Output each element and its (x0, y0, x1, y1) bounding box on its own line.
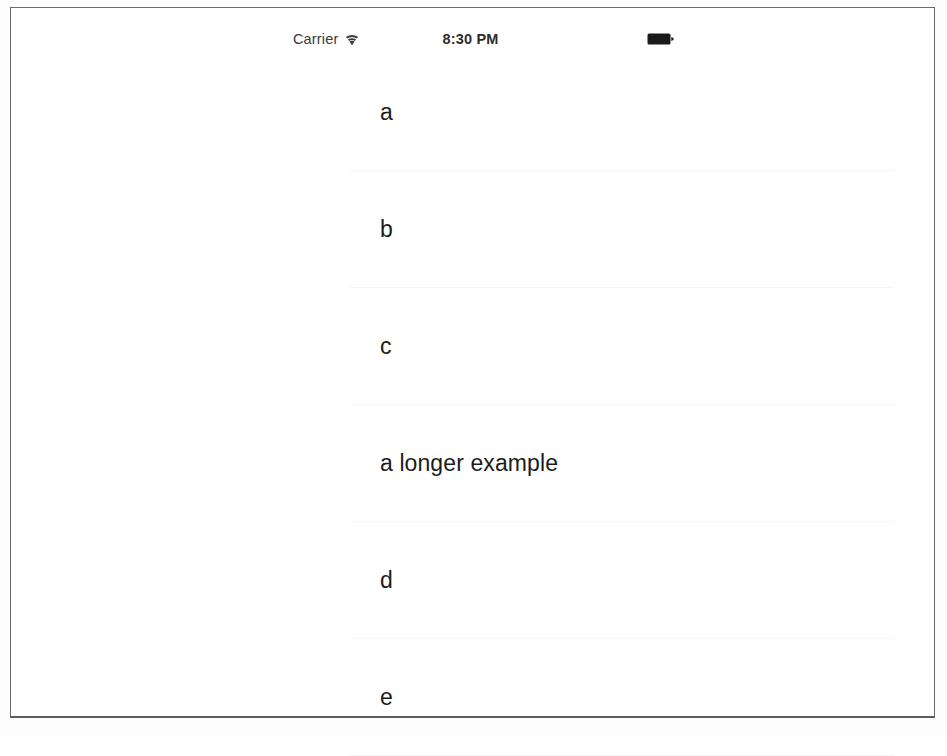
table-row-label: d (380, 567, 393, 594)
table-row-label: c (380, 333, 392, 360)
table-row[interactable]: b (11, 171, 934, 288)
table-row[interactable]: c (11, 288, 934, 405)
device-screen-frame: Carrier 8:30 PM a (10, 7, 935, 717)
table-row[interactable]: a longer example (11, 405, 934, 522)
status-bar-time: 8:30 PM (442, 31, 498, 47)
status-bar: Carrier 8:30 PM (11, 8, 934, 54)
table-row[interactable]: a (11, 54, 934, 171)
table-row-label: a longer example (380, 450, 558, 477)
table-row-label: b (380, 216, 393, 243)
battery-full-icon (647, 33, 674, 45)
table-row[interactable]: e (11, 639, 934, 756)
table-row[interactable]: d (11, 522, 934, 639)
table-view[interactable]: a b c a longer example d e (11, 54, 934, 718)
status-bar-center-group: 8:30 PM (11, 32, 934, 47)
status-bar-right-group (647, 33, 674, 45)
table-row-label: a (380, 99, 393, 126)
table-row-label: e (380, 684, 393, 711)
